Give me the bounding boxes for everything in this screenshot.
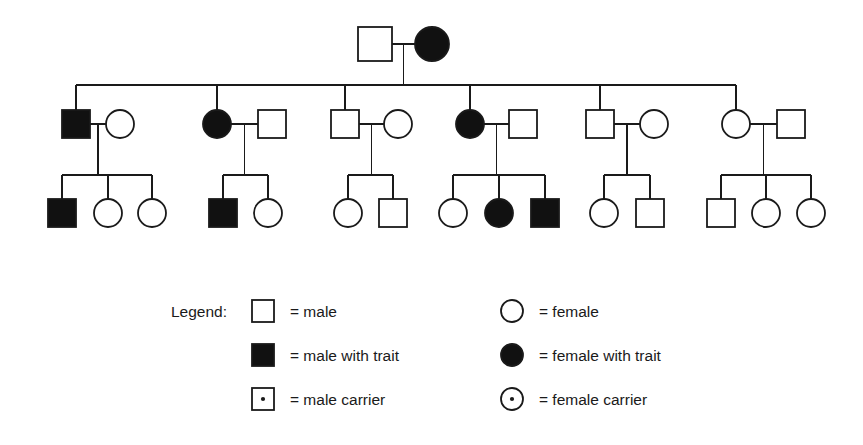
- legend-swatch-filled-circle: [501, 344, 523, 366]
- gen2-spouse-4-male-unaffected: [509, 110, 537, 138]
- pedigree-svg: Legend:= male= male with trait= male car…: [0, 0, 863, 445]
- gen3-child-5-2-male-unaffected: [636, 199, 664, 227]
- legend: Legend:= male= male with trait= male car…: [171, 300, 662, 410]
- gen3-child-1-1-male-affected: [48, 199, 76, 227]
- gen3-child-4-1-female-unaffected: [439, 199, 467, 227]
- legend-label-filled-square: = male with trait: [290, 347, 400, 364]
- pedigree-symbols: [48, 27, 825, 227]
- gen3-child-2-1-male-affected: [209, 199, 237, 227]
- gen3-child-5-1-female-unaffected: [590, 199, 618, 227]
- gen2-descendant-1-male-affected: [62, 110, 90, 138]
- pedigree-figure: Legend:= male= male with trait= male car…: [0, 0, 863, 445]
- gen1-person-2-female-affected: [415, 27, 449, 61]
- gen2-spouse-3-female-unaffected: [384, 110, 412, 138]
- legend-label-open-square: = male: [290, 303, 337, 320]
- gen2-descendant-4-female-affected: [456, 110, 484, 138]
- legend-title: Legend:: [171, 303, 227, 320]
- gen1-person-1-male-unaffected: [358, 27, 392, 61]
- legend-swatch-filled-square: [252, 344, 274, 366]
- gen2-descendant-2-female-affected: [203, 110, 231, 138]
- gen3-child-3-1-female-unaffected: [334, 199, 362, 227]
- legend-swatch-open-circle: [501, 300, 523, 322]
- gen2-spouse-1-female-unaffected: [106, 110, 134, 138]
- legend-label-dotted-circle: = female carrier: [539, 391, 647, 408]
- gen3-child-3-2-male-unaffected: [379, 199, 407, 227]
- gen3-child-4-3-male-affected: [531, 199, 559, 227]
- carrier-dot-icon: [510, 397, 514, 401]
- legend-label-filled-circle: = female with trait: [539, 347, 662, 364]
- gen2-spouse-5-female-unaffected: [640, 110, 668, 138]
- gen2-descendant-5-male-unaffected: [586, 110, 614, 138]
- pedigree-connector-lines: [62, 44, 811, 199]
- gen3-child-4-2-female-affected: [485, 199, 513, 227]
- gen3-child-6-1-male-unaffected: [707, 199, 735, 227]
- gen2-spouse-6-male-unaffected: [777, 110, 805, 138]
- gen2-spouse-2-male-unaffected: [258, 110, 286, 138]
- gen3-child-6-2-female-unaffected: [752, 199, 780, 227]
- gen3-child-1-3-female-unaffected: [138, 199, 166, 227]
- carrier-dot-icon: [261, 397, 265, 401]
- gen3-child-6-3-female-unaffected: [797, 199, 825, 227]
- gen3-child-2-2-female-unaffected: [254, 199, 282, 227]
- gen2-descendant-6-female-unaffected: [722, 110, 750, 138]
- legend-swatch-open-square: [252, 300, 274, 322]
- legend-label-open-circle: = female: [539, 303, 599, 320]
- legend-label-dotted-square: = male carrier: [290, 391, 385, 408]
- gen3-child-1-2-female-unaffected: [94, 199, 122, 227]
- gen2-descendant-3-male-unaffected: [331, 110, 359, 138]
